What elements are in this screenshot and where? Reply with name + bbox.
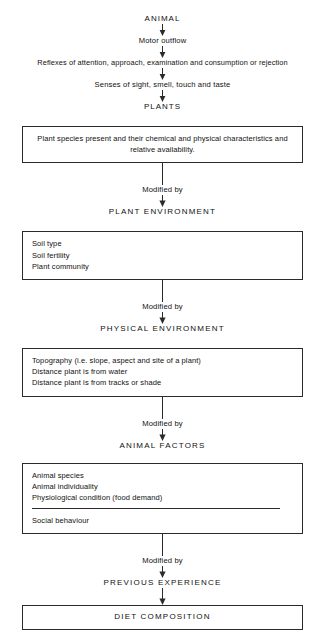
box-line: Animal species — [32, 470, 293, 481]
connector-line — [157, 534, 168, 556]
arrow-down-icon — [157, 195, 168, 207]
arrow-down-icon — [157, 566, 168, 578]
box-plant-species: Plant species present and their chemical… — [22, 126, 303, 163]
caption-physical-environment: PHYSICAL ENVIRONMENT — [0, 324, 325, 334]
node-senses: Senses of sight, smell, touch and taste — [0, 80, 325, 90]
box-line: Soil fertility — [32, 250, 293, 261]
box-line: Soil type — [32, 238, 293, 249]
node-plants: PLANTS — [0, 102, 325, 112]
connector-line — [157, 280, 168, 302]
connector-label-modified-by: Modified by — [0, 556, 325, 566]
box-line: relative availability. — [32, 144, 293, 155]
box-topography: Topography (i.e. slope, aspect and site … — [22, 348, 303, 397]
node-animal: ANIMAL — [0, 14, 325, 24]
box-diet-composition: DIET COMPOSITION — [22, 605, 303, 629]
box-line: Distance plant is from tracks or shade — [32, 377, 293, 388]
box-line: Plant species present and their chemical… — [32, 133, 293, 144]
box-line: Animal individuality — [32, 481, 293, 492]
node-motor-outflow: Motor outflow — [0, 36, 325, 46]
node-reflexes: Reflexes of attention, approach, examina… — [0, 58, 325, 68]
arrow-down-icon — [157, 429, 168, 441]
connector-line — [157, 163, 168, 185]
box-soil: Soil type Soil fertility Plant community — [22, 231, 303, 280]
connector-label-modified-by: Modified by — [0, 302, 325, 312]
connector-label-modified-by: Modified by — [0, 185, 325, 195]
box-line: Distance plant is from water — [32, 366, 293, 377]
arrow-down-icon — [157, 24, 168, 36]
box-line: Social behaviour — [32, 515, 293, 526]
caption-animal-factors: ANIMAL FACTORS — [0, 441, 325, 451]
box-line: Physiological condition (food demand) — [32, 492, 293, 503]
arrow-down-icon — [157, 312, 168, 324]
arrow-down-icon — [157, 68, 168, 80]
arrow-down-icon — [157, 46, 168, 58]
caption-plant-environment: PLANT ENVIRONMENT — [0, 207, 325, 217]
connector-line — [157, 397, 168, 419]
caption-previous-experience: PREVIOUS EXPERIENCE — [0, 578, 325, 588]
connector-label-modified-by: Modified by — [0, 419, 325, 429]
result-label: DIET COMPOSITION — [32, 611, 293, 622]
box-animal-factors: Animal species Animal individuality Phys… — [22, 463, 303, 535]
box-line: Topography (i.e. slope, aspect and site … — [32, 355, 293, 366]
arrow-down-icon — [157, 90, 168, 102]
box-line: Plant community — [32, 261, 293, 272]
arrow-down-icon — [157, 588, 168, 605]
